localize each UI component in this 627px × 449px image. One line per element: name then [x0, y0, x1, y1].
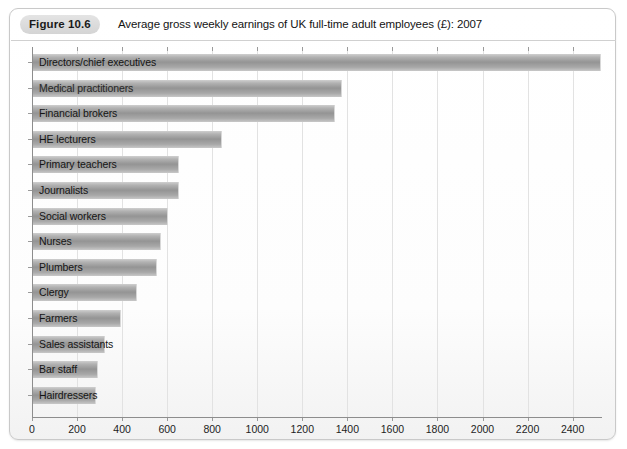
x-axis-tick-top	[302, 47, 303, 51]
x-axis-tick-top	[437, 47, 438, 51]
bar-category-label: Sales assistants	[35, 336, 113, 353]
x-axis-tick-label: 1400	[327, 423, 367, 435]
figure-header: Figure 10.6 Average gross weekly earning…	[10, 9, 615, 39]
x-axis-tick-top	[167, 47, 168, 51]
x-axis-tick-top	[483, 47, 484, 51]
gridline	[212, 47, 213, 417]
bar-category-label: Hairdressers	[35, 387, 97, 404]
x-axis-tick-label: 1000	[237, 423, 277, 435]
bar-category-label: Social workers	[35, 208, 106, 225]
gridline	[167, 47, 168, 417]
figure-title: Average gross weekly earnings of UK full…	[118, 18, 482, 30]
bar-category-label: Farmers	[35, 310, 77, 327]
gridline	[302, 47, 303, 417]
gridline	[483, 47, 484, 417]
bar-category-label: Financial brokers	[35, 105, 117, 122]
bar-category-label: Nurses	[35, 233, 72, 250]
x-axis-tick-label: 1200	[282, 423, 322, 435]
bar-category-label: Clergy	[35, 284, 69, 301]
bar-category-label: Bar staff	[35, 361, 77, 378]
x-axis-tick-top	[257, 47, 258, 51]
gridline	[347, 47, 348, 417]
bar-chart-plot-area: Directors/chief executivesMedical practi…	[16, 43, 611, 435]
gridline	[122, 47, 123, 417]
x-axis-tick-top	[528, 47, 529, 51]
gridline	[573, 47, 574, 417]
y-axis-line	[32, 47, 33, 417]
x-axis-tick-label: 2400	[553, 423, 593, 435]
bar-category-label: Journalists	[35, 182, 88, 199]
bar-category-label: Plumbers	[35, 259, 83, 276]
gridline	[437, 47, 438, 417]
x-axis-tick-top	[392, 47, 393, 51]
gridline	[392, 47, 393, 417]
x-axis-line	[32, 417, 602, 418]
bar-category-label: Medical practitioners	[35, 80, 133, 97]
x-axis-tick-label: 800	[192, 423, 232, 435]
x-axis-tick-label: 2000	[463, 423, 503, 435]
x-axis-tick-label: 2200	[508, 423, 548, 435]
x-axis-tick-top	[212, 47, 213, 51]
x-axis-tick-top	[77, 47, 78, 51]
x-axis-tick-label: 200	[57, 423, 97, 435]
x-axis-tick-top	[122, 47, 123, 51]
bar-category-label: HE lecturers	[35, 131, 96, 148]
bar-category-label: Primary teachers	[35, 156, 117, 173]
gridline	[257, 47, 258, 417]
gridline	[528, 47, 529, 417]
figure-card: Figure 10.6 Average gross weekly earning…	[9, 8, 616, 440]
x-axis-tick-label: 600	[147, 423, 187, 435]
figure-number-badge: Figure 10.6	[20, 15, 100, 34]
x-axis-tick-label: 400	[102, 423, 142, 435]
x-axis-tick-top	[573, 47, 574, 51]
x-axis-tick-label: 0	[12, 423, 52, 435]
header-divider	[11, 40, 616, 41]
x-axis-tick-label: 1600	[372, 423, 412, 435]
x-axis-tick-top	[347, 47, 348, 51]
bar-category-label: Directors/chief executives	[35, 54, 156, 71]
x-axis-tick-label: 1800	[417, 423, 457, 435]
